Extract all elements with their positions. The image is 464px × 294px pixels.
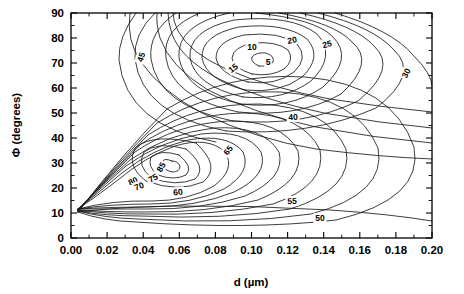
contour-label: 50: [314, 213, 327, 223]
x-tick-label: 0.06: [168, 244, 190, 256]
contour-label: 55: [285, 196, 298, 207]
contour-label-text: 10: [247, 42, 257, 52]
contour-label-text: 40: [288, 112, 298, 122]
contour-level-55: [78, 104, 347, 217]
contour-label: 40: [286, 112, 299, 123]
y-axis-title: Φ (degrees): [10, 93, 22, 158]
x-tick-label: 0.00: [60, 244, 82, 256]
y-tick-label: 30: [51, 157, 64, 169]
contour-level-42: [173, 13, 432, 112]
x-tick-label: 0.10: [240, 244, 262, 256]
y-tick-label: 60: [51, 82, 64, 94]
y-tick-label: 50: [51, 107, 64, 119]
contour-label-text: 65: [221, 143, 235, 157]
contour-label-text: 5: [266, 57, 271, 67]
contour-level-32b: [335, 13, 432, 86]
y-tick-label: 40: [51, 132, 64, 144]
y-tick-label: 70: [51, 57, 64, 69]
contour-label: 5: [264, 57, 271, 67]
contour-label: 10: [246, 42, 259, 52]
x-axis-title: d (µm): [234, 276, 269, 288]
contour-label-text: 15: [226, 61, 240, 75]
contour-level-22: [190, 19, 326, 98]
x-tick-label: 0.08: [204, 244, 227, 256]
x-tick-label: 0.18: [385, 244, 408, 256]
contour-level-32: [119, 13, 216, 142]
contour-level-27b: [238, 13, 362, 113]
y-tick-label: 80: [51, 32, 64, 44]
contour-label-text: 50: [315, 213, 325, 223]
contour-level-10: [232, 43, 291, 75]
contour-label: 45: [134, 49, 148, 64]
x-tick-label: 0.20: [421, 244, 443, 256]
x-tick-label: 0.14: [313, 244, 336, 256]
y-tick-label: 10: [51, 207, 64, 219]
x-tick-label: 0.16: [349, 244, 371, 256]
y-tick-label: 20: [51, 182, 64, 194]
contour-label-text: 55: [287, 196, 297, 206]
x-tick-label: 0.12: [276, 244, 298, 256]
contour-label: 25: [320, 38, 335, 51]
y-tick-label: 90: [51, 7, 64, 19]
y-tick-label: 0: [58, 232, 64, 244]
contour-level-56: [78, 113, 321, 214]
x-tick-label: 0.04: [132, 244, 155, 256]
x-tick-label: 0.02: [96, 244, 118, 256]
plot-canvas: 4510515202530406585758070605550 0.000.02…: [0, 0, 464, 294]
contour-label-text: 60: [173, 187, 184, 198]
contour-plot-figure: 4510515202530406585758070605550 0.000.02…: [0, 0, 464, 294]
contour-level-30b: [226, 13, 404, 132]
contour-label: 60: [171, 186, 185, 197]
contour-label: 30: [399, 65, 414, 81]
